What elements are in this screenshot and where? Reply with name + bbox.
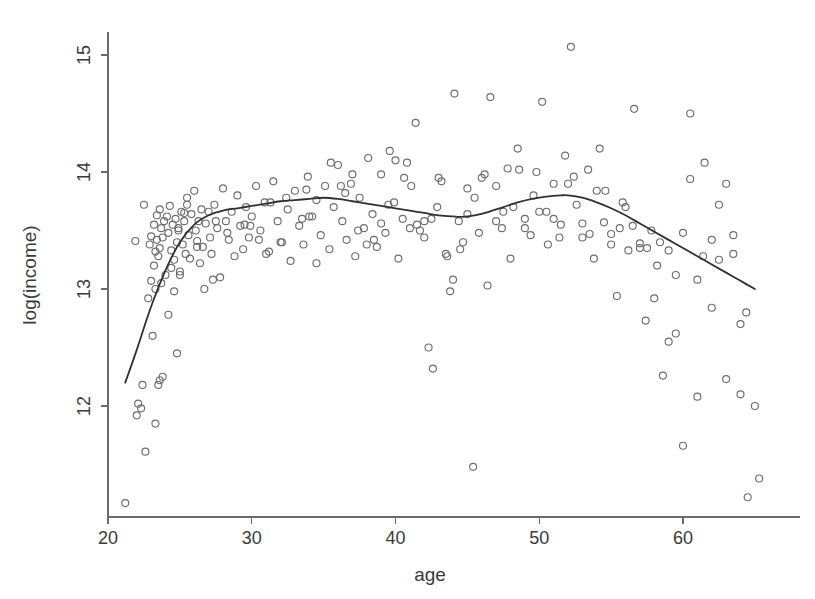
data-point [337,183,344,190]
data-point [156,206,163,213]
data-points-layer [122,43,763,506]
data-point [629,222,636,229]
data-point [208,250,215,257]
data-point [596,145,603,152]
data-point [158,225,165,232]
data-point [255,236,262,243]
data-point [613,293,620,300]
data-point [730,232,737,239]
data-point [184,194,191,201]
data-point [562,152,569,159]
data-point [369,211,376,218]
data-point [202,220,209,227]
data-point [225,236,232,243]
data-point [434,204,441,211]
data-point [342,190,349,197]
data-point [450,276,457,283]
data-point [184,201,191,208]
data-point [231,253,238,260]
data-point [197,260,204,267]
data-point [209,276,216,283]
data-point [429,365,436,372]
data-point [166,202,173,209]
data-point [701,159,708,166]
x-tick-label: 50 [529,528,549,548]
data-point [680,229,687,236]
x-tick-label: 30 [242,528,262,548]
data-point [557,221,564,228]
data-point [240,246,247,253]
data-point [573,201,580,208]
data-point [291,187,298,194]
data-point [475,229,482,236]
data-point [365,154,372,161]
data-point [457,246,464,253]
data-point [212,218,219,225]
data-point [182,250,189,257]
data-point [565,180,572,187]
data-point [444,253,451,260]
x-axis-title: age [414,564,446,585]
data-point [471,194,478,201]
data-point [151,262,158,269]
data-point [625,247,632,254]
data-point [257,227,264,234]
data-point [296,222,303,229]
data-point [608,231,615,238]
data-point [744,494,751,501]
data-point [715,256,722,263]
data-point [363,241,370,248]
data-point [284,206,291,213]
data-point [188,211,195,218]
data-point [460,239,467,246]
data-point [148,277,155,284]
data-point [516,166,523,173]
data-point [544,241,551,248]
data-point [132,238,139,245]
data-point [521,225,528,232]
data-point [146,241,153,248]
data-point [408,183,415,190]
data-point [464,185,471,192]
data-point [602,187,609,194]
data-point [172,215,179,222]
data-point [313,260,320,267]
data-point [287,257,294,264]
data-point [659,372,666,379]
data-point [349,171,356,178]
data-point [165,229,172,236]
data-point [270,178,277,185]
data-point [214,225,221,232]
data-point [507,255,514,262]
data-point [224,229,231,236]
data-point [579,234,586,241]
data-point [504,165,511,172]
data-point [447,288,454,295]
x-tick-label: 60 [673,528,693,548]
data-point [198,206,205,213]
data-point [500,208,507,215]
data-point [536,208,543,215]
data-point [493,183,500,190]
y-tick-label: 13 [74,279,94,299]
data-point [152,420,159,427]
data-point [395,255,402,262]
data-point [654,262,661,269]
x-tick-label: 40 [385,528,405,548]
data-point [335,161,342,168]
data-point [165,311,172,318]
data-point [687,110,694,117]
smoothing-curve [125,195,755,382]
data-point [751,403,758,410]
data-point [211,201,218,208]
data-point [579,220,586,227]
data-point [657,239,664,246]
data-point [586,231,593,238]
data-point [300,241,307,248]
data-point [140,201,147,208]
data-point [672,271,679,278]
data-point [145,295,152,302]
data-point [493,218,500,225]
data-point [327,159,334,166]
data-point [347,180,354,187]
